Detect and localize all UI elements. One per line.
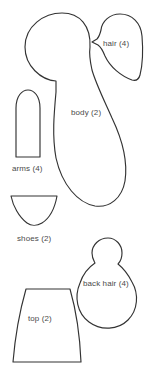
piece-outline-shoes[interactable] (11, 196, 57, 225)
piece-label-hair: hair (4) (103, 40, 129, 48)
piece-label-shoes: shoes (2) (17, 235, 51, 243)
piece-label-top: top (2) (28, 315, 52, 323)
piece-outline-top[interactable] (13, 289, 81, 362)
piece-label-back-hair: back hair (4) (83, 280, 129, 288)
piece-label-body: body (2) (71, 109, 101, 117)
pattern-shapes-canvas (0, 0, 156, 379)
piece-outline-arms[interactable] (16, 90, 40, 157)
piece-label-arms: arms (4) (12, 165, 43, 173)
pattern-sheet: body (2) hair (4) arms (4) shoes (2) bac… (0, 0, 156, 379)
